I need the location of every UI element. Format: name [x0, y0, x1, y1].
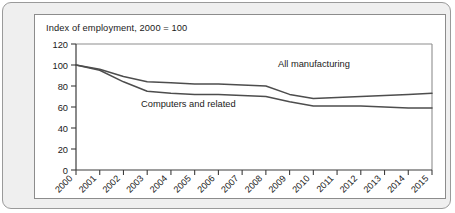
series-line-computers-and-related: [76, 65, 432, 108]
x-tick-label-2002: 2002: [101, 173, 122, 194]
x-tick-label-2005: 2005: [172, 173, 193, 194]
y-tick-label-60: 60: [58, 103, 68, 113]
series-label-all-manufacturing: All manufacturing: [278, 59, 350, 69]
figure-panel: Index of employment, 2000 = 100 120: [2, 2, 451, 209]
x-tick-label-2014: 2014: [385, 173, 406, 194]
x-axis-ticks-and-labels: 2000200120022003200420052006200720082009…: [53, 170, 432, 195]
x-tick-label-2012: 2012: [338, 173, 359, 194]
x-tick-label-2013: 2013: [362, 173, 383, 194]
x-tick-label-2001: 2001: [77, 173, 98, 194]
y-tick-label-120: 120: [52, 40, 68, 50]
x-tick-label-2015: 2015: [409, 173, 430, 194]
series-label-computers-and-related: Computers and related: [141, 99, 236, 109]
y-tick-label-100: 100: [52, 61, 68, 71]
data-series-group: [76, 65, 432, 108]
x-tick-label-2010: 2010: [290, 173, 311, 194]
employment-index-line-chart: 120 100 80 60 40 20 0 200020012002200320…: [35, 15, 447, 200]
x-tick-label-2000: 2000: [53, 173, 74, 194]
x-tick-label-2009: 2009: [267, 173, 288, 194]
chart-card: Index of employment, 2000 = 100 120: [34, 14, 446, 199]
y-axis-ticks: [71, 44, 76, 170]
x-tick-label-2006: 2006: [195, 173, 216, 194]
y-axis-tick-labels: 120 100 80 60 40 20 0: [52, 40, 68, 176]
y-tick-label-20: 20: [58, 145, 68, 155]
y-tick-label-80: 80: [58, 82, 68, 92]
series-line-all-manufacturing: [76, 65, 432, 99]
x-tick-label-2008: 2008: [243, 173, 264, 194]
x-tick-label-2007: 2007: [219, 173, 240, 194]
x-tick-label-2011: 2011: [315, 173, 336, 194]
x-tick-label-2004: 2004: [148, 173, 169, 194]
x-tick-label-2003: 2003: [124, 173, 145, 194]
y-tick-label-40: 40: [58, 124, 68, 134]
